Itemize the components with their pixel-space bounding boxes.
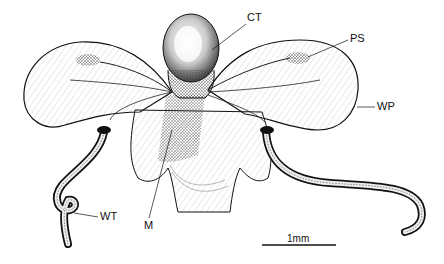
line-drawing [0, 0, 444, 264]
label-wp: WP [377, 101, 395, 112]
label-ps: PS [350, 33, 365, 44]
right-tail [260, 126, 422, 232]
head [163, 14, 219, 98]
specimen-illustration: CT PS WP WT M 1mm [0, 0, 444, 264]
left-tail [57, 126, 111, 244]
label-ct: CT [247, 12, 262, 23]
label-m: M [144, 220, 153, 231]
label-wt: WT [100, 211, 117, 222]
scale-bar-label: 1mm [287, 233, 309, 244]
abdomen [131, 95, 271, 212]
